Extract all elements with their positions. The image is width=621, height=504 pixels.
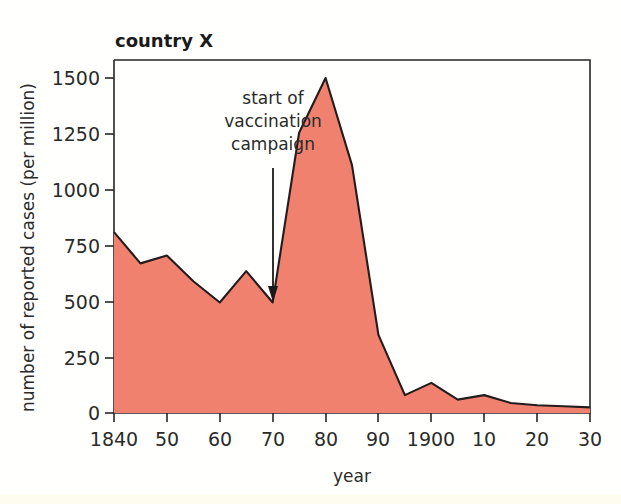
y-tick-label-1250: 1250 bbox=[52, 123, 100, 145]
y-axis-title: number of reported cases (per million) bbox=[18, 83, 38, 412]
y-tick-label-750: 750 bbox=[64, 235, 100, 257]
x-tick-label-1910: 10 bbox=[472, 428, 496, 450]
x-tick-label-1920: 20 bbox=[525, 428, 549, 450]
x-tick-label-1900: 1900 bbox=[407, 428, 455, 450]
x-tick-marks bbox=[114, 413, 590, 422]
x-tick-label-1850: 50 bbox=[155, 428, 179, 450]
x-tick-label-1870: 70 bbox=[261, 428, 285, 450]
y-tick-label-1000: 1000 bbox=[52, 179, 100, 201]
y-tick-labels: 1500 1250 1000 750 500 250 0 bbox=[52, 67, 100, 424]
y-tick-label-0: 0 bbox=[88, 402, 100, 424]
annotation-line-2: vaccination bbox=[224, 111, 322, 131]
figure-page: country X number of reported cases (per … bbox=[0, 0, 621, 504]
y-tick-label-1500: 1500 bbox=[52, 67, 100, 89]
x-tick-label-1930: 30 bbox=[578, 428, 602, 450]
y-tick-label-250: 250 bbox=[64, 347, 100, 369]
y-tick-marks bbox=[105, 78, 114, 413]
x-axis-title: year bbox=[333, 466, 371, 486]
y-tick-label-500: 500 bbox=[64, 291, 100, 313]
cases-area-fill bbox=[114, 78, 590, 413]
annotation-line-3: campaign bbox=[231, 134, 315, 154]
x-tick-label-1890: 90 bbox=[366, 428, 390, 450]
annotation-line-1: start of bbox=[242, 88, 304, 108]
x-tick-label-1840: 1840 bbox=[90, 428, 138, 450]
epidemic-cases-area-chart: country X number of reported cases (per … bbox=[0, 0, 621, 504]
x-tick-label-1860: 60 bbox=[208, 428, 232, 450]
x-tick-labels: 1840 50 60 70 80 90 1900 10 20 30 bbox=[90, 428, 602, 450]
chart-title: country X bbox=[115, 30, 213, 51]
x-tick-label-1880: 80 bbox=[314, 428, 338, 450]
